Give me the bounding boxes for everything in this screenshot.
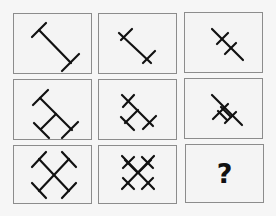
cell-r1-c3 [184, 12, 263, 73]
puzzle-grid: ? [0, 0, 276, 216]
cell-r1-c1 [13, 13, 92, 74]
cell-r1-c2 [98, 13, 177, 74]
cell-r2-c2 [98, 79, 177, 140]
cell-r3-c2 [98, 145, 177, 204]
cell-r3-c1 [13, 145, 92, 204]
cell-r2-c1 [13, 79, 92, 140]
question-mark: ? [186, 145, 263, 202]
inner-crosses-figure-icon [185, 13, 264, 74]
square-cross-figure-icon [14, 146, 93, 205]
compact-crossed-figure-icon [185, 79, 264, 140]
crossed-ends-figure-icon [99, 14, 178, 75]
lattice-figure-icon [99, 146, 178, 205]
cell-r2-c3 [184, 78, 263, 139]
rotated-h-figure-icon [14, 80, 93, 141]
i-beam-figure-icon [14, 14, 93, 75]
cell-r3-c3-answer[interactable]: ? [185, 144, 264, 203]
rotated-h-crosses-figure-icon [99, 80, 178, 141]
